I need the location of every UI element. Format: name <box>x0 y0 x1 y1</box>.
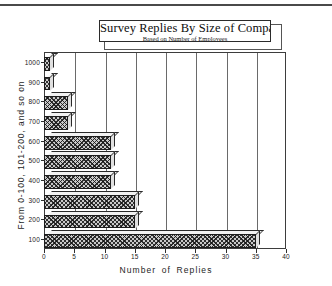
x-axis-ticks: 0510152025303540 <box>44 249 286 263</box>
x-tick-label-20: 20 <box>161 253 169 261</box>
x-tick-label-30: 30 <box>222 253 230 261</box>
y-tick-label-900: 900 <box>29 79 40 86</box>
x-tick-label-40: 40 <box>282 253 290 261</box>
bar-side-face <box>111 151 115 169</box>
bar-400 <box>44 171 115 189</box>
chart-subtitle: Based on Number of Employees <box>100 35 270 42</box>
bar-600 <box>44 132 115 150</box>
x-axis-title: Number of Replies <box>0 265 332 275</box>
bar-side-face <box>50 73 54 91</box>
bar-side-face <box>50 53 54 71</box>
bar-side-face <box>135 191 139 209</box>
y-tick-label-200: 200 <box>29 216 40 223</box>
title-plaque-box: Survey Replies By Size of Company Based … <box>99 20 271 42</box>
bar-front-face <box>44 175 111 189</box>
y-tick-label-100: 100 <box>29 236 40 243</box>
bar-200 <box>44 211 139 229</box>
y-tick-mark-500 <box>41 160 45 161</box>
bar-front-face <box>44 234 256 248</box>
y-tick-label-600: 600 <box>29 138 40 145</box>
bar-side-face <box>68 112 72 130</box>
y-axis-title: From 0-100, 101-200, and so on <box>16 55 26 255</box>
x-tick-label-35: 35 <box>252 253 260 261</box>
bar-300 <box>44 191 139 209</box>
y-tick-label-300: 300 <box>29 197 40 204</box>
chart-title-plaque: Survey Replies By Size of Company Based … <box>99 20 277 45</box>
x-tick-label-25: 25 <box>191 253 199 261</box>
y-tick-label-500: 500 <box>29 157 40 164</box>
x-tick-label-10: 10 <box>101 253 109 261</box>
y-tick-mark-600 <box>41 141 45 142</box>
y-tick-label-700: 700 <box>29 118 40 125</box>
x-tick-label-15: 15 <box>131 253 139 261</box>
bars-layer <box>44 52 286 249</box>
bar-side-face <box>111 171 115 189</box>
bar-front-face <box>44 136 111 150</box>
bar-500 <box>44 151 115 169</box>
y-tick-mark-400 <box>41 180 45 181</box>
x-tick-label-0: 0 <box>42 253 46 261</box>
y-tick-label-800: 800 <box>29 98 40 105</box>
y-tick-mark-1000 <box>41 62 45 63</box>
bar-100 <box>44 230 260 248</box>
y-tick-mark-100 <box>41 239 45 240</box>
bar-side-face <box>111 132 115 150</box>
chart-figure: Survey Replies By Size of Company Based … <box>0 0 332 286</box>
x-tick-label-5: 5 <box>72 253 76 261</box>
bar-front-face <box>44 215 135 229</box>
chart-title: Survey Replies By Size of Company <box>100 22 270 35</box>
bar-side-face <box>68 92 72 110</box>
y-tick-mark-300 <box>41 200 45 201</box>
y-tick-label-1000: 1000 <box>25 59 40 66</box>
y-tick-mark-900 <box>41 82 45 83</box>
y-tick-label-400: 400 <box>29 177 40 184</box>
bar-front-face <box>44 155 111 169</box>
bar-side-face <box>135 211 139 229</box>
bar-front-face <box>44 195 135 209</box>
y-tick-mark-200 <box>41 219 45 220</box>
bar-side-face <box>256 230 260 248</box>
y-tick-mark-700 <box>41 121 45 122</box>
y-tick-mark-800 <box>41 101 45 102</box>
